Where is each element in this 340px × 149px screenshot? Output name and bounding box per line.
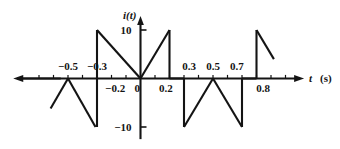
waveform-segment	[184, 79, 213, 128]
x-tick-label-0-7: 0.7	[230, 61, 244, 72]
x-tick-label-neg0-3: −0.3	[87, 61, 107, 72]
x-axis-unit-label: (s)	[320, 73, 332, 84]
y-axis-label: i(t)	[123, 10, 136, 21]
x-tick-label-0-3: 0.3	[182, 61, 196, 72]
waveform-figure	[0, 0, 340, 149]
x-tick-label-neg0-2: −0.2	[105, 83, 125, 94]
y-axis-arrow	[137, 16, 144, 25]
x-tick-label-zero: 0	[135, 83, 141, 94]
x-axis-right-arrow	[294, 75, 304, 82]
y-tick-label-neg10: −10	[114, 122, 131, 133]
waveform-segment	[51, 79, 68, 109]
x-axis-label: t	[309, 73, 312, 84]
x-tick-label-neg0-5: −0.5	[58, 61, 78, 72]
waveform-segment	[68, 79, 96, 128]
x-tick-label-0-2: 0.2	[159, 83, 173, 94]
y-tick-label-10: 10	[121, 25, 132, 36]
x-tick-label-0-5: 0.5	[206, 61, 220, 72]
x-tick-label-0-8: 0.8	[256, 83, 270, 94]
waveform-segment	[213, 79, 242, 128]
waveform-segment	[257, 30, 274, 59]
waveform-segment	[141, 30, 170, 79]
